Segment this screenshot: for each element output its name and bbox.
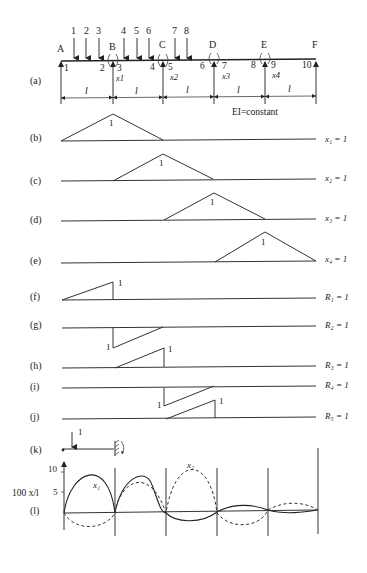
- load-label-2: 2: [84, 25, 89, 36]
- unit-label-r5: R₅ = 1: [324, 411, 349, 421]
- node-label-9: 9: [271, 60, 276, 70]
- node-label-4: 4: [150, 62, 155, 72]
- panel-tag-b: (b): [30, 132, 42, 144]
- panel-tag-e: (e): [30, 255, 41, 267]
- beam-line: [61, 59, 316, 61]
- redundant-label-x4: x4: [271, 70, 281, 80]
- beam-diagram: (a) A B C D E F 1 2 3 4 5 6 7 8: [0, 0, 367, 573]
- panel-k-cantilever: (k) 1: [30, 427, 124, 456]
- unit-label-r2: R₂ = 1: [324, 320, 349, 330]
- unit-label-r4: R₄ = 1: [324, 380, 349, 390]
- peak-label-b: 1: [109, 118, 114, 128]
- panel-tag-g: (g): [30, 319, 42, 331]
- panel-a-beam: (a) A B C D E F 1 2 3 4 5 6 7 8: [30, 25, 318, 117]
- series-label-x2: x₂: [186, 460, 194, 470]
- load-label-3: 3: [96, 25, 101, 36]
- panel-tag-c: (c): [30, 175, 41, 187]
- span-label-5: l: [288, 83, 291, 94]
- load-label-4: 4: [121, 25, 126, 36]
- node-label-3: 3: [117, 63, 122, 73]
- node-label-7: 7: [222, 61, 227, 71]
- panel-tag-j: (j): [30, 411, 39, 423]
- peak-label-i: 1: [157, 400, 162, 410]
- panel-b: (b) 1 x₁ = 1: [30, 114, 347, 144]
- peak-label-c: 1: [159, 158, 164, 168]
- load-label-8: 8: [184, 25, 189, 36]
- span-label-1: l: [85, 85, 88, 96]
- load-arrows: [74, 38, 187, 58]
- support-label-a: A: [57, 43, 65, 54]
- support-label-e: E: [261, 39, 267, 50]
- node-label-5: 5: [168, 62, 173, 72]
- panel-f: (f) 1 R₁ = 1: [30, 278, 349, 303]
- panel-l-plot: (l) 100 x/l 10 5 x₁ x₂: [12, 448, 318, 536]
- support-label-f: F: [312, 39, 318, 50]
- unit-label-x4: x₄ = 1: [324, 254, 347, 264]
- panel-tag-h: (h): [30, 360, 42, 372]
- series-x2-curve: [64, 470, 318, 527]
- peak-label-e: 1: [261, 237, 266, 247]
- redundant-label-x3: x3: [221, 71, 230, 81]
- node-label-10: 10: [302, 60, 312, 70]
- panel-d: (d) 1 x₃ = 1: [30, 193, 347, 226]
- series-label-x1: x₁: [92, 480, 100, 490]
- support-label-c: C: [159, 39, 166, 50]
- panel-h: (h) 1 R₃ = 1: [30, 344, 349, 372]
- support-label-b: B: [109, 41, 116, 52]
- panel-tag-f: (f): [30, 291, 40, 303]
- redundant-label-x2: x2: [169, 72, 179, 82]
- panel-tag-d: (d): [30, 214, 42, 226]
- span-label-2: l: [135, 85, 138, 96]
- load-label-5: 5: [134, 25, 139, 36]
- peak-label-h: 1: [168, 344, 173, 354]
- panel-c: (c) 1 x₂ = 1: [30, 154, 347, 187]
- panel-tag-l: (l): [30, 505, 39, 517]
- peak-label-j: 1: [219, 396, 224, 406]
- panel-e: (e) 1 x₄ = 1: [30, 232, 347, 267]
- span-label-4: l: [237, 84, 240, 95]
- stiffness-note: EI=constant: [232, 107, 278, 117]
- panel-tag-i: (i): [30, 381, 39, 393]
- node-label-6: 6: [200, 61, 205, 71]
- peak-label-f: 1: [118, 278, 123, 288]
- panel-tag-a: (a): [30, 75, 41, 87]
- redundant-label-x1: x1: [115, 73, 124, 83]
- peak-label-d: 1: [210, 197, 215, 207]
- node-label-1: 1: [64, 63, 69, 73]
- node-label-2: 2: [100, 63, 105, 73]
- plot-y-axis-label: 100 x/l: [12, 488, 39, 498]
- support-label-d: D: [209, 39, 216, 50]
- unit-label-x3: x₃ = 1: [324, 213, 347, 223]
- panel-i: (i) 1 R₄ = 1: [30, 380, 349, 410]
- fixed-support-icon: [115, 440, 124, 456]
- panel-j: (j) 1 R₅ = 1: [30, 396, 349, 423]
- unit-label-x1: x₁ = 1: [324, 134, 347, 144]
- load-label-k: 1: [78, 427, 83, 437]
- load-label-7: 7: [172, 25, 177, 36]
- plot-ytick-5: 5: [53, 487, 58, 497]
- node-label-8: 8: [251, 60, 256, 70]
- series-x1-curve: [64, 475, 318, 521]
- panel-g: (g) 1 R₂ = 1: [30, 319, 349, 352]
- span-label-3: l: [186, 84, 189, 95]
- peak-label-g: 1: [106, 342, 111, 352]
- unit-label-r1: R₁ = 1: [324, 292, 349, 302]
- unit-label-r3: R₃ = 1: [324, 360, 349, 370]
- load-label-1: 1: [71, 25, 76, 36]
- load-label-6: 6: [146, 25, 151, 36]
- plot-ytick-10: 10: [48, 464, 58, 474]
- panel-tag-k: (k): [30, 444, 42, 456]
- unit-label-x2: x₂ = 1: [324, 173, 347, 183]
